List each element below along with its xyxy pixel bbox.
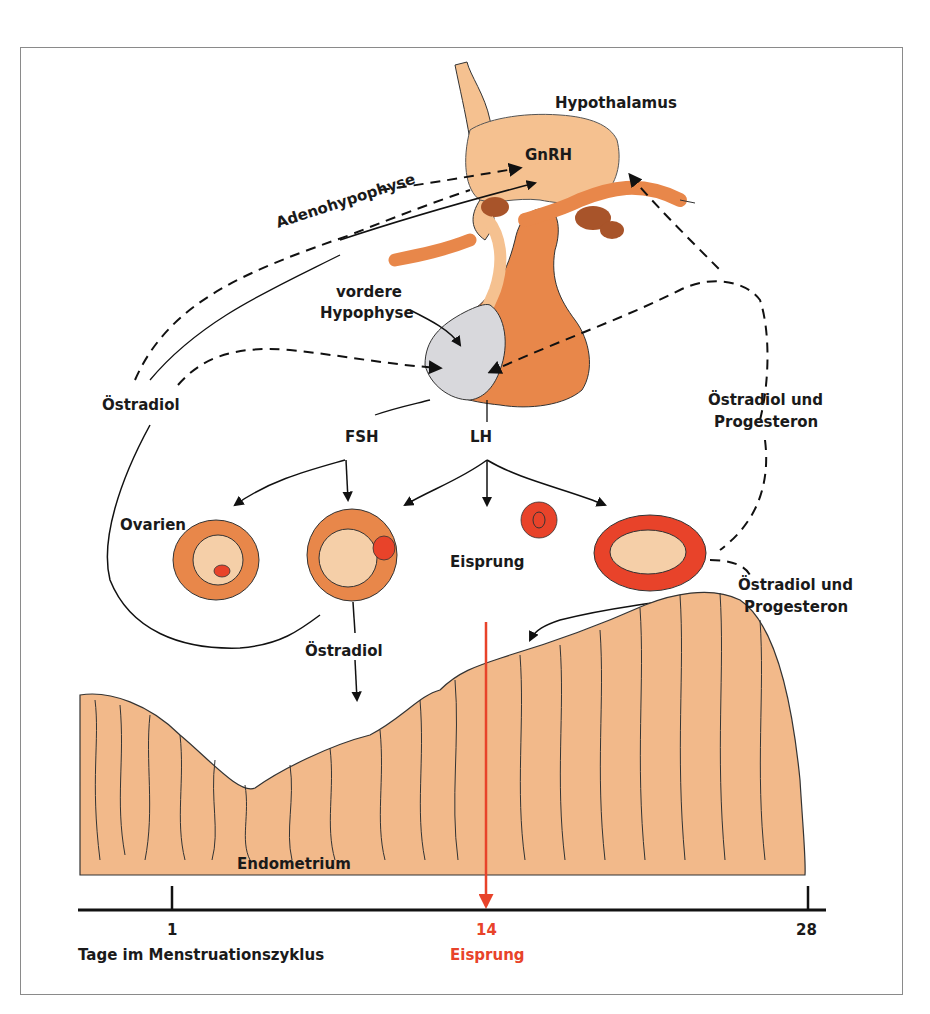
endometrium-shape — [80, 592, 805, 875]
label-oestradiol-progesteron-right-1: Östradiol und — [708, 390, 823, 409]
timeline-axis — [78, 886, 826, 910]
tick-label-1: 1 — [167, 921, 177, 939]
axis-label: Tage im Menstruationszyklus — [78, 946, 324, 964]
follicle-secondary — [307, 509, 397, 601]
follicle-connector — [353, 602, 355, 633]
label-oestradiol-progesteron-lower-2: Progesteron — [744, 598, 848, 616]
label-fsh: FSH — [345, 428, 379, 446]
label-hypothalamus: Hypothalamus — [555, 94, 677, 112]
ovulation-label: Eisprung — [450, 946, 525, 964]
label-gnrh: GnRH — [525, 146, 572, 164]
menstrual-cycle-diagram: Hypothalamus GnRH Adenohypophyse vordere… — [0, 0, 930, 1014]
label-vordere: vordere — [336, 283, 402, 301]
tick-label-14: 14 — [476, 921, 497, 939]
label-oestradiol-progesteron-right-2: Progesteron — [714, 413, 818, 431]
label-oestradiol-follicle: Östradiol — [305, 641, 383, 660]
corpus-luteum — [594, 515, 706, 591]
label-eisprung-mid: Eisprung — [450, 553, 525, 571]
ovum — [521, 502, 557, 538]
label-endometrium: Endometrium — [237, 855, 351, 873]
tick-label-28: 28 — [796, 921, 817, 939]
oestradiol-arrow-endometrium — [355, 660, 357, 700]
label-oestradiol-progesteron-lower-1: Östradiol und — [738, 575, 853, 594]
label-oestradiol-left: Östradiol — [102, 395, 180, 414]
label-hypophyse: Hypophyse — [320, 304, 414, 322]
label-lh: LH — [470, 428, 492, 446]
label-ovarien: Ovarien — [120, 516, 186, 534]
hormone-connectors — [235, 400, 605, 505]
